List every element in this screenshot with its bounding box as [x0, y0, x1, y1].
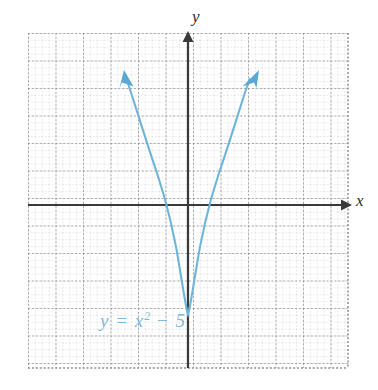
- x-axis-label: x: [356, 192, 364, 209]
- y-axis-label: y: [192, 8, 200, 25]
- equation-tail: − 5: [150, 310, 186, 331]
- plot-canvas: [0, 0, 378, 390]
- equation-base: y = x: [100, 310, 144, 331]
- parabola-figure: y x y = x2 − 5: [0, 0, 378, 390]
- curve-equation-label: y = x2 − 5: [100, 311, 186, 330]
